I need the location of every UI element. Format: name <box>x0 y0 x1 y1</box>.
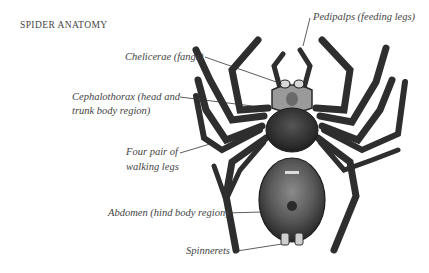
abdomen <box>259 158 325 242</box>
label-pedipalps: Pedipalps (feeding legs) <box>313 10 415 24</box>
cephalothorax <box>266 80 318 152</box>
spider-illustration <box>0 0 429 273</box>
label-abdomen: Abdomen (hind body region) <box>108 206 229 220</box>
pedipalps-leader <box>303 18 310 46</box>
label-chelicerae: Chelicerae (fangs) <box>125 50 203 64</box>
label-legs-line1: Four pair of <box>126 145 178 159</box>
spinnerets-leader <box>237 244 282 251</box>
label-cephalothorax-line1: Cephalothorax (head and <box>72 90 180 104</box>
pedipalps <box>274 50 310 88</box>
spider-anatomy-diagram: SPIDER ANATOMY <box>0 0 429 273</box>
label-cephalothorax-line2: trunk body region) <box>72 104 150 118</box>
legs-leader <box>180 144 210 153</box>
label-spinnerets: Spinnerets <box>186 244 230 258</box>
label-legs-line2: walking legs <box>126 160 179 174</box>
